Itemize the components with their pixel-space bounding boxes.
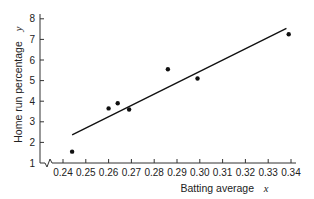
x-tick-label: 0.32	[236, 167, 256, 178]
x-axis-title: Batting average	[180, 182, 254, 194]
data-point	[287, 32, 291, 36]
x-tick-label: 0.33	[258, 167, 278, 178]
data-points	[70, 32, 291, 154]
data-point	[127, 107, 131, 111]
x-tick-label: 0.26	[99, 167, 119, 178]
y-tick-label: 1	[29, 158, 35, 169]
x-axis-variable: x	[263, 183, 269, 194]
data-point	[116, 101, 120, 105]
y-tick-label: 2	[29, 137, 35, 148]
data-point	[166, 67, 170, 71]
x-tick-label: 0.29	[167, 167, 187, 178]
axes	[40, 14, 296, 167]
y-tick-label: 5	[29, 75, 35, 86]
regression-line	[72, 28, 286, 135]
tick-marks: 123456780.240.250.260.270.280.290.300.31…	[29, 13, 301, 178]
x-tick-label: 0.25	[76, 167, 96, 178]
y-tick-label: 3	[29, 116, 35, 127]
x-tick-label: 0.30	[190, 167, 210, 178]
x-tick-label: 0.24	[53, 167, 73, 178]
x-tick-label: 0.27	[122, 167, 142, 178]
y-tick-label: 6	[29, 55, 35, 66]
x-tick-label: 0.31	[213, 167, 233, 178]
y-tick-label: 8	[29, 13, 35, 24]
y-tick-label: 4	[29, 96, 35, 107]
fit-line	[72, 28, 286, 135]
y-axis-variable: y	[13, 26, 24, 32]
x-tick-label: 0.34	[281, 167, 301, 178]
y-axis-title: Home run percentage	[12, 41, 24, 143]
data-point	[195, 76, 199, 80]
scatter-chart: 123456780.240.250.260.270.280.290.300.31…	[0, 0, 314, 199]
x-tick-label: 0.28	[144, 167, 164, 178]
data-point	[106, 106, 110, 110]
x-axis-line	[40, 159, 296, 167]
data-point	[70, 149, 74, 153]
y-tick-label: 7	[29, 34, 35, 45]
